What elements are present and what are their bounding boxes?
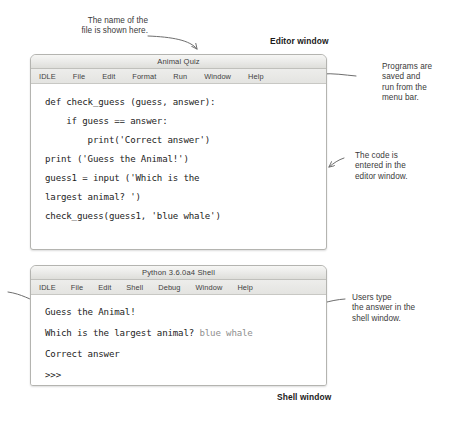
callout-filename: The name of the file is shown here. [24, 16, 148, 37]
code-line: print ('Guess the Animal!') [31, 150, 326, 169]
shell-line: Correct answer [31, 344, 326, 365]
menu-item-edit[interactable]: Edit [102, 72, 115, 81]
shell-menu-item-edit[interactable]: Edit [98, 283, 111, 292]
shell-menubar[interactable]: IDLE File Edit Shell Debug Window Help [31, 280, 326, 295]
callout-menubar-line4: menu bar. [382, 93, 448, 103]
callout-menubar: Programs are saved and run from the menu… [382, 62, 448, 104]
callout-user-line3: shell window. [352, 314, 442, 324]
shell-line: Which is the largest animal? blue whale [31, 323, 326, 344]
shell-line-user-text: blue whale [199, 328, 252, 338]
code-line: guess1 = input ('Which is the [31, 169, 326, 188]
callout-user-line2: the answer in the [352, 303, 442, 313]
shell-line-program-text: Correct answer [45, 349, 120, 359]
shell-window[interactable]: Python 3.6.0a4 Shell IDLE File Edit Shel… [30, 265, 327, 386]
shell-line: >>> [31, 365, 326, 386]
code-line: check_guess(guess1, 'blue whale') [31, 207, 326, 226]
shell-menu-item-debug[interactable]: Debug [158, 283, 180, 292]
shell-menu-item-window[interactable]: Window [196, 283, 223, 292]
shell-window-title: Python 3.6.0a4 Shell [142, 268, 215, 277]
shell-menu-item-idle[interactable]: IDLE [39, 283, 56, 292]
code-line: largest animal? ') [31, 188, 326, 207]
callout-menubar-line1: Programs are [382, 62, 448, 72]
leader-line-filename [148, 36, 197, 49]
label-editor-window: Editor window [270, 36, 329, 46]
menu-item-help[interactable]: Help [248, 72, 264, 81]
shell-menu-item-file[interactable]: File [71, 283, 83, 292]
shell-line-program-text: >>> [45, 370, 61, 380]
menu-item-idle[interactable]: IDLE [39, 72, 56, 81]
callout-user-answer: Users type the answer in the shell windo… [352, 293, 442, 324]
code-line: def check_guess (guess, answer): [31, 93, 326, 112]
callout-user-line1: Users type [352, 293, 442, 303]
editor-titlebar[interactable]: Animal Quiz [31, 55, 326, 69]
editor-window-title: Animal Quiz [157, 57, 200, 66]
shell-titlebar[interactable]: Python 3.6.0a4 Shell [31, 266, 326, 280]
leader-line-code [329, 158, 344, 167]
callout-code-line2: entered in the [355, 161, 437, 171]
shell-line-program-text: Which is the largest animal? [45, 328, 199, 338]
code-line: print('Correct answer') [31, 131, 326, 150]
callout-filename-line2: file is shown here. [24, 26, 148, 36]
callout-code-line1: The code is [355, 151, 437, 161]
menu-item-window[interactable]: Window [204, 72, 231, 81]
callout-filename-line1: The name of the [24, 16, 148, 26]
callout-code-line3: editor window. [355, 172, 437, 182]
shell-line-program-text: Guess the Animal! [45, 307, 136, 317]
shell-line: Guess the Animal! [31, 302, 326, 323]
callout-menubar-line2: saved and [382, 72, 448, 82]
code-line: if guess == answer: [31, 112, 326, 131]
callout-menubar-line3: run from the [382, 83, 448, 93]
menu-item-run[interactable]: Run [173, 72, 187, 81]
shell-output-area[interactable]: Guess the Animal! Which is the largest a… [31, 295, 326, 386]
menu-item-file[interactable]: File [73, 72, 85, 81]
label-shell-window: Shell window [277, 392, 331, 402]
editor-window[interactable]: Animal Quiz IDLE File Edit Format Run Wi… [30, 54, 327, 250]
callout-code-area: The code is entered in the editor window… [355, 151, 437, 182]
shell-menu-item-shell[interactable]: Shell [126, 283, 143, 292]
editor-menubar[interactable]: IDLE File Edit Format Run Window Help [31, 69, 326, 84]
editor-code-area[interactable]: def check_guess (guess, answer): if gues… [31, 84, 326, 234]
shell-menu-item-help[interactable]: Help [237, 283, 253, 292]
menu-item-format[interactable]: Format [132, 72, 156, 81]
